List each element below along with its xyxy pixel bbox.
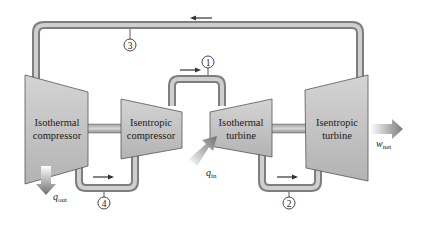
isentropic-compressor: Isentropic compressor: [121, 99, 182, 159]
flow-arrow-4: [93, 175, 114, 180]
isentropic-turbine: Isentropic turbine: [305, 75, 368, 181]
heat-in-label: qin: [206, 167, 217, 180]
state-marker-1: 1: [202, 56, 214, 75]
work-net-arrow-icon: [370, 119, 403, 139]
state-marker-4: 4: [98, 192, 110, 209]
state-label-3: 3: [128, 41, 133, 51]
flow-arrow-top: [190, 16, 212, 21]
heat-in-arrow-icon: [189, 136, 217, 166]
pipe-state-1: [172, 79, 222, 106]
isothermal-turbine-label-2: turbine: [226, 130, 256, 141]
isothermal-compressor: Isothermal compressor: [25, 75, 88, 184]
state-label-2: 2: [287, 199, 292, 209]
heat-out-label: qout: [53, 191, 67, 204]
work-net-label: wnet: [376, 138, 391, 151]
isothermal-turbine-label-1: Isothermal: [219, 117, 264, 128]
flow-arrow-2: [277, 175, 298, 180]
isothermal-compressor-label-1: Isothermal: [35, 117, 80, 128]
shaft-turbines: [271, 124, 307, 133]
state-marker-3: 3: [124, 29, 136, 51]
state-marker-2: 2: [283, 192, 295, 209]
flow-arrow-1: [180, 68, 201, 73]
isentropic-compressor-label-1: Isentropic: [130, 117, 172, 128]
state-label-4: 4: [102, 199, 107, 209]
isothermal-compressor-label-2: compressor: [33, 130, 82, 141]
pipe-state-3: [36, 25, 360, 80]
shaft-compressors: [87, 124, 123, 133]
diagram-canvas: 3 1 4 2: [0, 0, 424, 227]
isothermal-turbine: Isothermal turbine: [210, 99, 272, 157]
isentropic-compressor-label-2: compressor: [127, 130, 176, 141]
isentropic-turbine-label-2: turbine: [322, 130, 352, 141]
isentropic-turbine-label-1: Isentropic: [316, 117, 358, 128]
state-label-1: 1: [206, 58, 211, 68]
